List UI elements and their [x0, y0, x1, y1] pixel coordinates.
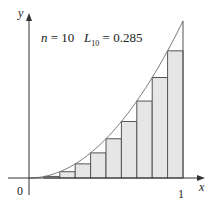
bar [121, 121, 136, 178]
x-axis-label: x [199, 180, 204, 195]
y-axis-label: y [18, 6, 23, 21]
bar [137, 101, 152, 178]
sum-subscript: 10 [91, 39, 99, 48]
bar [152, 78, 167, 178]
bar [168, 51, 183, 178]
sum-annotation: n = 10 L10 = 0.285 [41, 30, 142, 48]
bar [60, 172, 75, 178]
y-axis-arrow-icon [26, 13, 32, 21]
bar [91, 153, 106, 178]
bar [106, 139, 121, 178]
x-tick-1: 1 [178, 187, 184, 202]
bar [75, 164, 90, 178]
sum-value: 0.285 [113, 30, 142, 45]
x-tick-0: 0 [17, 184, 23, 199]
n-symbol: n [41, 30, 48, 45]
rectangles [44, 51, 183, 178]
n-value: 10 [61, 30, 74, 45]
